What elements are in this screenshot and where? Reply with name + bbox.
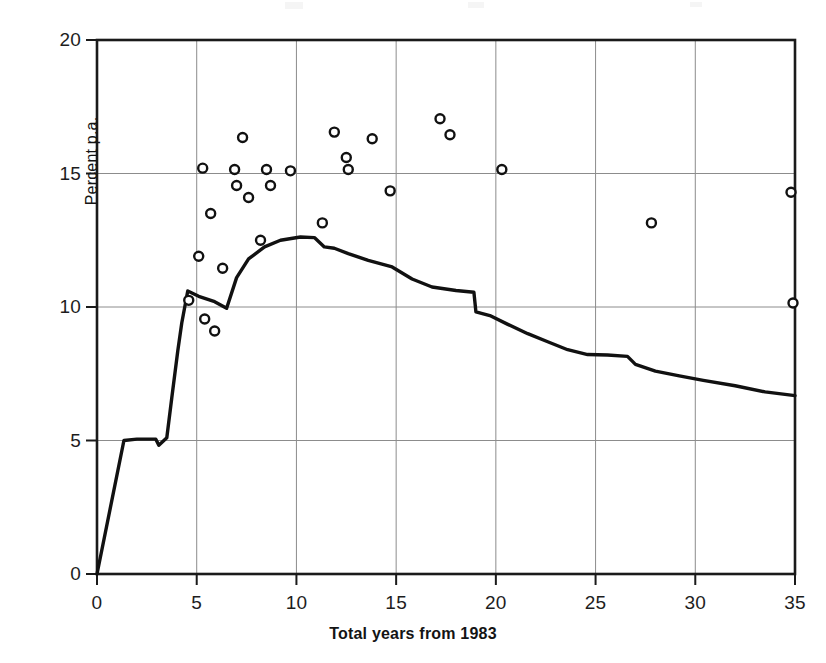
data-point [198, 164, 207, 173]
data-point [266, 181, 275, 190]
data-point [386, 186, 395, 195]
data-point [342, 153, 351, 162]
line-series-layer [97, 237, 795, 574]
x-tick-label: 15 [385, 592, 407, 614]
data-point [210, 327, 219, 336]
data-point [194, 252, 203, 261]
data-line-cumulative-average-line [97, 237, 795, 574]
y-tick-label: 20 [39, 29, 81, 51]
x-tick-label: 30 [685, 592, 707, 614]
y-tick-label: 15 [39, 163, 81, 185]
data-point [262, 165, 271, 174]
y-tick-label: 10 [39, 296, 81, 318]
data-point [789, 298, 798, 307]
data-point [244, 193, 253, 202]
data-point [238, 133, 247, 142]
y-tick-label: 0 [39, 563, 81, 585]
y-axis-title: Percent p.a. [83, 6, 101, 316]
x-tick-label: 25 [585, 592, 607, 614]
gridlines [97, 40, 795, 574]
x-tick-label: 10 [286, 592, 308, 614]
data-point [436, 114, 445, 123]
data-point [200, 315, 209, 324]
data-point [206, 209, 215, 218]
data-point [218, 264, 227, 273]
data-point [256, 236, 265, 245]
data-point [286, 166, 295, 175]
data-point [230, 165, 239, 174]
data-point [368, 134, 377, 143]
data-point [497, 165, 506, 174]
y-tick-label: 5 [39, 430, 81, 452]
x-tick-label: 5 [191, 592, 202, 614]
data-point [232, 181, 241, 190]
data-point [330, 128, 339, 137]
data-point [344, 165, 353, 174]
data-point [318, 218, 327, 227]
chart-figure: 05101520 05101520253035 Percent p.a. Tot… [0, 0, 826, 663]
scatter-series-layer [184, 114, 797, 335]
x-axis-title: Total years from 1983 [0, 625, 826, 643]
plot-canvas [0, 0, 826, 663]
x-tick-label: 20 [485, 592, 507, 614]
data-point [445, 130, 454, 139]
data-point [647, 218, 656, 227]
x-tick-label: 35 [784, 592, 806, 614]
data-point [787, 188, 796, 197]
data-point [184, 296, 193, 305]
x-tick-label: 0 [92, 592, 103, 614]
